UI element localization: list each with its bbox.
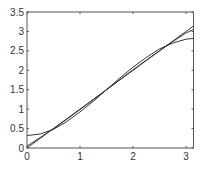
y-tick-label: 3 [18, 26, 24, 37]
y-tick-label: 1.5 [10, 84, 24, 95]
plot-frame [27, 12, 194, 148]
y-tick-label: 3.5 [10, 7, 24, 18]
y-tick-label: 1 [18, 104, 24, 115]
tick-labels: 00.511.522.533.50123 [10, 7, 189, 163]
axis-ticks [27, 12, 194, 148]
x-tick-label: 3 [183, 151, 189, 162]
x-tick-label: 1 [77, 151, 83, 162]
x-tick-label: 0 [24, 151, 30, 162]
series-approx-2 [27, 29, 194, 146]
line-chart: 00.511.522.533.50123 [0, 0, 206, 170]
y-tick-label: 2 [18, 65, 24, 76]
y-tick-label: 0.5 [10, 123, 24, 134]
y-tick-label: 2.5 [10, 45, 24, 56]
chart-series [27, 26, 194, 148]
x-tick-label: 2 [130, 151, 136, 162]
